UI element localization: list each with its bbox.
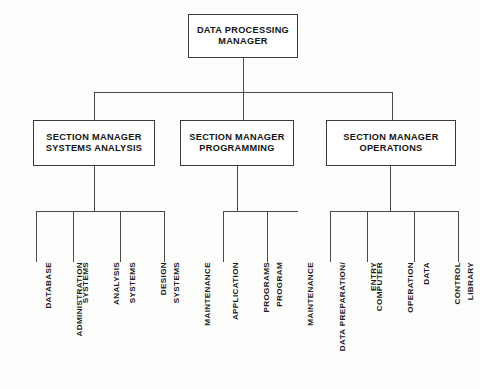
node-label-line1: DATA PROCESSING [197,25,289,36]
node-section-manager-systems-analysis[interactable]: SECTION MANAGER SYSTEMS ANALYSIS [33,120,155,166]
connector-leaf-stem-program-maintenance [267,211,268,262]
leaf-line1: SYSTEMS [81,262,91,383]
connector-bus-group-1 [36,211,164,212]
leaf-line1: SYSTEMS [172,262,182,383]
leaf-line1: PROGRAM [275,262,285,383]
connector-stem-group-2 [237,166,238,211]
connector-leaf-stem-systems-analysis [73,211,74,262]
node-section-manager-operations[interactable]: SECTION MANAGER OPERATIONS [326,120,456,166]
leaf-line1: COMPUTER [375,262,385,383]
node-label: DATA PROCESSING MANAGER [197,25,289,47]
node-label-line2: SYSTEMS ANALYSIS [46,143,143,154]
leaf-line1: SYSTEMS [128,262,138,383]
connector-stem-group-3 [390,166,391,211]
node-section-manager-programming[interactable]: SECTION MANAGER PROGRAMMING [180,120,294,166]
node-label-line1: SECTION MANAGER [46,132,143,143]
connector-bus-group-3 [330,211,458,212]
connector-leaf-stem-systems-design [120,211,121,262]
leaf-line1: DATA [422,262,432,383]
connector-leaf-stem-data-preparation-entry [330,211,331,262]
connector-leaf-stem-computer-operation [367,211,368,262]
connector-leaf-stem-library [458,211,459,262]
connector-drop-section-1 [94,92,95,120]
connector-leaf-stem-application-programs [223,211,224,262]
connector-leaf-stem-data-control [414,211,415,262]
connector-leaf-stem-systems-maintenance [164,211,165,262]
leaf-line1: APPLICATION [231,262,241,383]
node-label-line1: SECTION MANAGER [189,132,284,143]
node-label-line2: MANAGER [197,36,289,47]
connector-leaf-stem-database-administration [36,211,37,262]
node-label: SECTION MANAGER SYSTEMS ANALYSIS [46,132,143,154]
connector-root-stem [243,58,244,92]
node-data-processing-manager[interactable]: DATA PROCESSING MANAGER [188,14,298,58]
connector-drop-section-3 [392,92,393,120]
leaf-label-library: LIBRARY [446,262,480,383]
node-label-line2: PROGRAMMING [189,143,284,154]
node-label-line1: SECTION MANAGER [343,132,438,143]
node-label: SECTION MANAGER PROGRAMMING [189,132,284,154]
leaf-line2: MAINTENANCE [306,262,316,383]
connector-stem-group-1 [94,166,95,211]
leaf-line1: DATA PREPARATION/ [338,262,348,383]
leaf-line1: DATABASE [44,262,54,383]
connector-bus-group-2 [223,211,298,212]
leaf-line1: LIBRARY [466,262,476,383]
org-chart: DATA PROCESSING MANAGER SECTION MANAGER … [0,0,480,389]
node-label-line2: OPERATIONS [343,143,438,154]
node-label: SECTION MANAGER OPERATIONS [343,132,438,154]
connector-drop-section-2 [243,92,244,120]
